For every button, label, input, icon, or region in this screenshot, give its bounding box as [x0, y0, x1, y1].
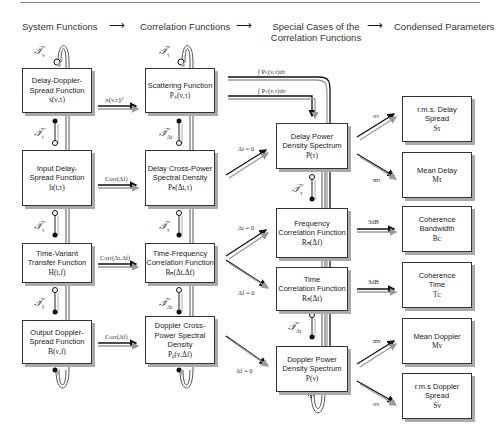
- box-label-line2: Correlation Function: [278, 228, 346, 238]
- box-label-line1: Coherence: [419, 271, 456, 281]
- edge-label-row2: Corr(Δf): [105, 175, 128, 182]
- box-symbol: Bᴄ: [433, 234, 442, 244]
- box-label-line2: Spread Function: [29, 173, 84, 183]
- box-label-line2: Spectral Density: [153, 173, 208, 183]
- edge-label-m-tau: mτ: [373, 176, 381, 183]
- box-delay-power-density-spectrum[interactable]: Delay Power Density Spectrum P(τ): [276, 123, 348, 169]
- box-symbol: Mν: [432, 341, 442, 351]
- transform-subscript: τ: [167, 52, 169, 58]
- transform-icon-col1-12: 𝒯t: [34, 126, 44, 140]
- box-rms-delay-spread[interactable]: r.m.s. Delay Spread Sτ: [402, 96, 472, 142]
- box-symbol: Tᴄ: [433, 290, 441, 300]
- box-label-line3: Density: [167, 340, 192, 350]
- box-symbol: Sτ: [433, 124, 440, 134]
- fourier-transform-icon: 𝒯: [292, 182, 300, 194]
- box-coherence-time[interactable]: Coherence Time Tᴄ: [402, 262, 472, 308]
- fourier-transform-icon: 𝒯: [288, 320, 296, 332]
- box-frequency-correlation-function[interactable]: Frequency Correlation Function Rₕ(Δf): [276, 208, 348, 258]
- box-label-line1: r.m.s. Delay: [417, 105, 457, 115]
- box-label-line1: Delay Cross-Power: [148, 164, 213, 174]
- transform-icon-col2-23: 𝒯τ: [159, 219, 169, 233]
- box-coherence-bandwidth[interactable]: Coherence Bandwidth Bᴄ: [402, 206, 472, 252]
- box-label-line1: Coherence: [419, 215, 456, 225]
- box-label-line2: Bandwidth: [419, 224, 454, 234]
- box-label-line1: Scattering Function: [148, 81, 213, 91]
- transform-icon-col2-34: 𝒯Δt: [159, 296, 173, 310]
- box-symbol: H(t,f): [49, 268, 66, 278]
- box-input-delay-spread-function[interactable]: Input Delay- Spread Function h(t,τ): [22, 150, 92, 206]
- box-label-line1: Time: [304, 275, 320, 285]
- edge-label-sigma-nu: σν: [373, 400, 379, 407]
- edge-label-df0-b: Δf = 0: [236, 367, 253, 374]
- box-symbol: B(ν,f): [48, 347, 66, 357]
- edge-label-df0-a: Δf = 0: [238, 289, 255, 296]
- fourier-transform-icon: 𝒯: [34, 44, 42, 56]
- box-label-line1: r.m.s Doppler: [415, 382, 460, 392]
- edge-label-row3: Corr(Δt,Δf): [100, 254, 130, 261]
- transform-subscript: τ: [300, 190, 302, 196]
- edge-label-3db-b: 3dB: [368, 278, 379, 285]
- box-delay-doppler-spread-function[interactable]: Delay-Doppler- Spread Function s(ν,τ): [22, 68, 92, 113]
- box-label-line1: Frequency: [294, 219, 329, 229]
- transform-subscript: ν: [42, 52, 45, 58]
- box-symbol: h(t,τ): [49, 183, 65, 193]
- transform-subscript: τ: [42, 227, 44, 233]
- box-label-line1: Time-Variant: [36, 249, 78, 259]
- box-label-line2: Spread: [425, 114, 449, 124]
- box-label-line2: Correlation Function: [146, 258, 214, 268]
- transform-subscript: t: [42, 134, 44, 140]
- edge-label-row1: |s(ν,τ)|²: [105, 96, 124, 103]
- box-label-line2: Power Spectral: [155, 331, 206, 341]
- transform-icon-col1-23: 𝒯τ: [34, 219, 44, 233]
- box-symbol: P(τ): [306, 151, 318, 161]
- box-symbol: Pₛ(ν,τ): [170, 91, 190, 101]
- box-rms-doppler-spread[interactable]: r.m.s Doppler Spread Sν: [402, 373, 472, 419]
- transform-subscript: Δt: [296, 328, 302, 334]
- box-time-frequency-correlation-function[interactable]: Time-Frequency Correlation Function Rₕ(Δ…: [145, 243, 215, 283]
- box-label-line1: Delay Power: [291, 132, 334, 142]
- box-doppler-power-density-spectrum[interactable]: Doppler Power Density Spectrum P(ν): [276, 346, 348, 392]
- transform-subscript: Δt: [167, 134, 173, 140]
- box-time-variant-transfer-function[interactable]: Time-Variant Transfer Function H(t,f): [22, 243, 92, 283]
- transform-icon-col2-top: 𝒯τ: [159, 44, 169, 58]
- edge-label-m-nu: mν: [373, 337, 381, 344]
- box-mean-delay[interactable]: Mean Delay Mτ: [402, 152, 472, 198]
- edge-label-integral-tau: ∫ Pₛ(ν,τ)dτ: [258, 68, 285, 76]
- box-label-line1: Mean Delay: [417, 166, 457, 176]
- fourier-transform-icon: 𝒯: [159, 296, 167, 308]
- box-symbol: Sν: [433, 401, 441, 411]
- transform-icon-col1-34: 𝒯f: [34, 296, 44, 310]
- box-symbol: P(ν): [306, 374, 319, 384]
- box-label-line1: Delay-Doppler-: [32, 76, 82, 86]
- fourier-transform-icon: 𝒯: [34, 296, 42, 308]
- box-label-line1: Output Doppler-: [30, 328, 83, 338]
- edge-label-3db-a: 3dB: [368, 218, 379, 225]
- box-doppler-cross-power-spectral-density[interactable]: Doppler Cross- Power Spectral Density Pᵦ…: [145, 316, 215, 364]
- box-label-line1: Time-Frequency: [153, 249, 207, 259]
- box-label-line2: Transfer Function: [28, 258, 87, 268]
- box-symbol: Pᵦ(ν,Δf): [168, 350, 192, 360]
- fourier-transform-icon: 𝒯: [34, 126, 42, 138]
- transform-subscript: τ: [167, 227, 169, 233]
- fourier-transform-icon: 𝒯: [159, 126, 167, 138]
- box-symbol: Mτ: [432, 175, 442, 185]
- box-label-line2: Time: [429, 280, 445, 290]
- box-label-line1: Mean Doppler: [413, 332, 460, 342]
- box-symbol: Pₕ(Δt,τ): [168, 183, 192, 193]
- transform-icon-col1-top: 𝒯ν: [34, 44, 45, 58]
- edge-label-row4: Corr(Δf): [105, 333, 128, 340]
- transform-subscript: Δt: [167, 304, 173, 310]
- box-symbol: Rₕ(Δf): [302, 238, 322, 248]
- box-time-correlation-function[interactable]: Time Correlation Function Rₕ(Δt): [276, 267, 348, 311]
- box-output-doppler-spread-function[interactable]: Output Doppler- Spread Function B(ν,f): [22, 320, 92, 364]
- fourier-transform-icon: 𝒯: [159, 44, 167, 56]
- box-label-line2: Spread: [425, 391, 449, 401]
- box-scattering-function[interactable]: Scattering Function Pₛ(ν,τ): [145, 68, 215, 113]
- box-label-line2: Spread Function: [29, 86, 84, 96]
- box-label-line2: Density Spectrum: [282, 141, 341, 151]
- edge-label-dt0-b: Δt = 0: [238, 224, 254, 231]
- box-mean-doppler[interactable]: Mean Doppler Mν: [402, 318, 472, 364]
- box-delay-cross-power-spectral-density[interactable]: Delay Cross-Power Spectral Density Pₕ(Δt…: [145, 150, 215, 206]
- box-label-line1: Doppler Cross-: [155, 321, 205, 331]
- box-symbol: s(ν,τ): [49, 95, 65, 105]
